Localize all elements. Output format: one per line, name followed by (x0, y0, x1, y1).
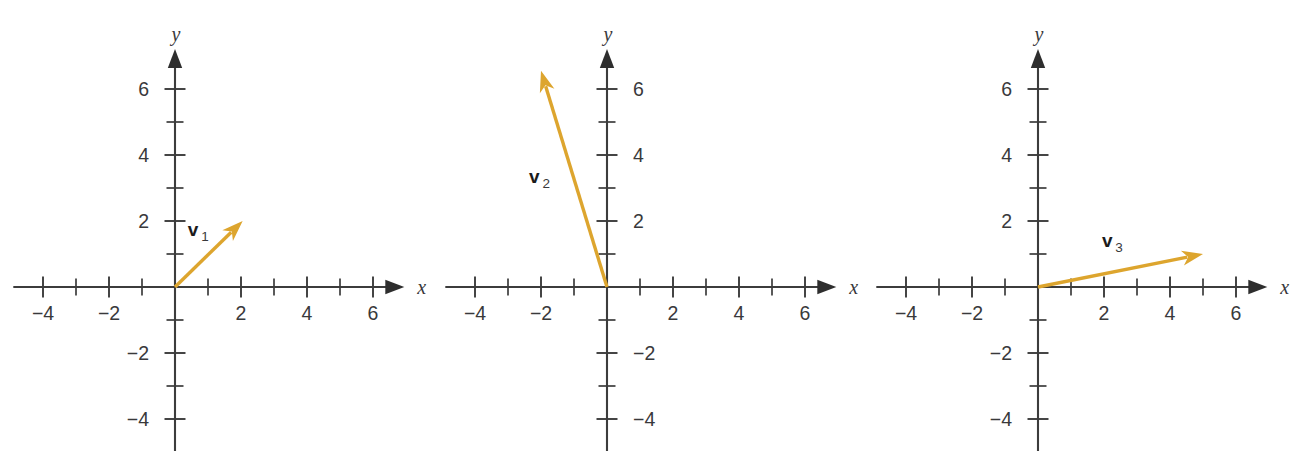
x-tick-label: 4 (734, 302, 745, 324)
y-tick-label: −2 (127, 342, 149, 364)
x-tick-label: −4 (464, 302, 486, 324)
vector-label-text: v (188, 219, 199, 240)
y-axis-title: y (602, 23, 613, 46)
plot-panel-1: −4−2246−4−2246xyv1 (0, 0, 432, 451)
x-tick-label: 2 (668, 302, 679, 324)
x-axis-arrowhead-icon (817, 280, 836, 294)
y-axis-title: y (170, 23, 181, 46)
y-tick-label: −4 (990, 408, 1012, 430)
x-tick-label: −2 (530, 302, 552, 324)
y-tick-label: 6 (1001, 78, 1012, 100)
plot-panel-3: −4−2246−4−2246xyv3 (863, 0, 1295, 451)
vector-label-subscript: 2 (542, 176, 550, 191)
x-tick-label: −4 (32, 302, 54, 324)
vector-label-group: v1 (188, 219, 209, 244)
x-tick-label: 6 (1231, 302, 1242, 324)
vector-label-text: v (529, 166, 540, 187)
x-tick-label: 2 (1099, 302, 1110, 324)
y-tick-label: 2 (138, 210, 149, 232)
y-axis-title: y (1033, 23, 1044, 46)
vector-shaft-v3 (1038, 257, 1187, 287)
vector-label-text: v (1102, 230, 1113, 251)
x-tick-label: 4 (302, 302, 313, 324)
x-tick-label: −4 (895, 302, 917, 324)
x-axis-arrowhead-icon (1248, 280, 1267, 294)
vector-label-subscript: 3 (1115, 240, 1123, 255)
vector-figure: −4−2246−4−2246xyv1−4−2246−4−2246xyv2−4−2… (0, 0, 1295, 451)
y-tick-label: 2 (1001, 210, 1012, 232)
x-axis-title: x (416, 276, 426, 298)
coordinate-plane-3: −4−2246−4−2246xyv3 (863, 0, 1295, 451)
plot-panel-2: −4−2246−4−2246xyv2 (432, 0, 864, 451)
y-tick-label: 4 (138, 144, 149, 166)
x-tick-label: 6 (800, 302, 811, 324)
y-tick-label: 4 (1001, 144, 1012, 166)
y-tick-label: 6 (633, 78, 644, 100)
y-tick-label: −4 (633, 408, 655, 430)
vector-shaft-v2 (546, 86, 607, 287)
y-tick-label: −2 (633, 342, 655, 364)
y-tick-label: 2 (633, 210, 644, 232)
x-axis-title: x (848, 276, 858, 298)
y-tick-label: 6 (138, 78, 149, 100)
coordinate-plane-2: −4−2246−4−2246xyv2 (432, 0, 864, 451)
y-axis-arrowhead-icon (600, 49, 614, 68)
x-tick-label: 4 (1165, 302, 1176, 324)
x-tick-label: 2 (236, 302, 247, 324)
x-tick-label: −2 (961, 302, 983, 324)
x-axis-title: x (1279, 276, 1289, 298)
x-tick-label: −2 (98, 302, 120, 324)
y-tick-label: 4 (633, 144, 644, 166)
y-axis-arrowhead-icon (1031, 49, 1045, 68)
y-tick-label: −2 (990, 342, 1012, 364)
y-tick-label: −4 (127, 408, 149, 430)
vector-label-group: v3 (1102, 230, 1123, 255)
coordinate-plane-1: −4−2246−4−2246xyv1 (0, 0, 432, 451)
x-axis-arrowhead-icon (385, 280, 404, 294)
vector-label-subscript: 1 (201, 229, 209, 244)
x-tick-label: 6 (368, 302, 379, 324)
y-axis-arrowhead-icon (168, 49, 182, 68)
vector-label-group: v2 (529, 166, 550, 191)
